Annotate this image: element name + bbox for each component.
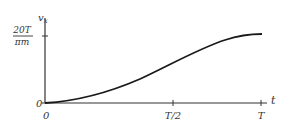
velocity-chart: vx 20T πm 0 0 T/2 T t — [0, 0, 286, 126]
y-tick-top-denominator: πm — [14, 37, 29, 47]
x-axis-label: t — [271, 94, 276, 107]
y-axis-label: vx — [38, 12, 48, 25]
x-tick-half-label: T/2 — [165, 110, 181, 121]
y-tick-top-numerator: 20T — [12, 25, 31, 35]
velocity-curve — [45, 34, 262, 103]
x-tick-full-label: T — [258, 110, 266, 121]
y-origin-label: 0 — [36, 98, 43, 109]
x-origin-label: 0 — [43, 110, 50, 121]
